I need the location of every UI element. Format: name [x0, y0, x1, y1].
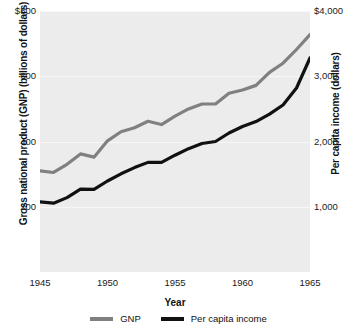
x-axis-tick-label: 1945 — [20, 277, 60, 288]
y-axis-left-tick-label: 200 — [0, 201, 36, 212]
y-axis-left-tick-label: 400 — [0, 136, 36, 147]
legend-item: GNP — [90, 314, 141, 324]
plot-area — [40, 11, 310, 272]
x-axis-tick-label: 1960 — [223, 277, 263, 288]
legend-item: Per capita income — [161, 314, 267, 324]
series-lines — [40, 11, 310, 272]
y-axis-right-tick-label: 3,000 — [314, 70, 356, 81]
y-axis-left-tick-label: $800 — [0, 5, 36, 16]
legend-line-icon — [90, 317, 113, 321]
legend-label: GNP — [120, 314, 141, 324]
y-axis-right-tick-label: 1,000 — [314, 201, 356, 212]
x-axis-tick-label: 1955 — [155, 277, 195, 288]
chart-figure: Gross national product (GNP) (billions o… — [0, 0, 357, 336]
x-axis-tick-label: 1965 — [290, 277, 330, 288]
line-per-capita-income — [40, 58, 310, 203]
x-axis-tick-label: 1950 — [88, 277, 128, 288]
y-axis-left-tick-label: 600 — [0, 70, 36, 81]
x-axis-title: Year — [40, 297, 310, 308]
legend-line-icon — [161, 317, 184, 321]
line-gnp — [40, 34, 310, 172]
legend-label: Per capita income — [191, 314, 267, 324]
y-axis-right-tick-label: $4,000 — [314, 5, 356, 16]
y-axis-right-tick-label: 2,000 — [314, 136, 356, 147]
chart-legend: GNPPer capita income — [0, 314, 357, 324]
